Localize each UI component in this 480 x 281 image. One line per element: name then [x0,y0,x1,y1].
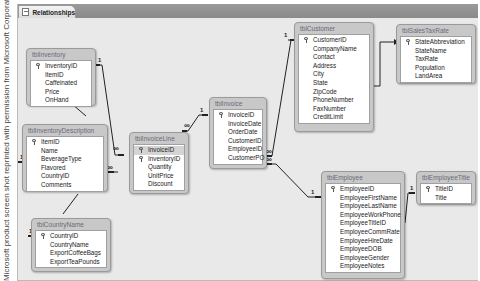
field-row[interactable]: Caffeinated [31,79,91,88]
field-name: EmployeeWorkPhone [340,211,401,218]
field-row[interactable]: CustomerID [214,137,262,146]
table-tblemployeetitle[interactable]: tblEmployeeTitle TitleID Title [416,171,476,205]
table-tblsalestaxrate[interactable]: tblSalesTaxRate StateAbbreviation StateN… [396,24,476,84]
field-row[interactable]: CountryName [36,241,106,250]
field-row[interactable]: State [299,79,369,88]
table-title: tblEmployee [325,172,401,183]
field-name: Flavored [41,164,66,171]
field-row[interactable]: Contact [299,53,369,62]
field-row[interactable]: EmployeeLastName [326,202,400,211]
field-row[interactable]: StateAbbreviation [401,38,471,47]
field-row[interactable]: ExportTeaPounds [36,258,106,267]
field-row[interactable]: TaxRate [401,55,471,64]
field-row[interactable]: TitleID [421,185,471,194]
table-tblinvoiceline[interactable]: tblInvoiceLine InvoiceID InventoryID Qua… [129,132,189,194]
field-row[interactable]: PhoneNumber [299,96,369,105]
field-row[interactable]: CustomerID [299,36,369,45]
field-row[interactable]: StateName [401,47,471,56]
field-name: Price [45,88,59,95]
table-tblcustomer[interactable]: tblCustomer CustomerID CompanyName Conta… [294,22,374,132]
field-row[interactable]: EmployeeNotes [326,262,400,271]
table-title: tblInventory [30,49,92,60]
field-row[interactable]: ZipCode [299,88,369,97]
field-row[interactable]: InvoiceID [134,146,184,155]
field-name: ItemID [41,138,60,145]
field-row[interactable]: EmployeeID [326,185,400,194]
field-name: CustomerID [313,36,347,43]
field-row[interactable]: Discount [134,180,184,189]
table-title: tblInvoiceLine [133,133,185,144]
field-name: Comments [41,181,71,188]
field-name: EmployeeLastName [340,202,397,209]
field-row[interactable]: ItemID [31,71,91,80]
primary-key-icon [219,112,223,118]
table-title: tblCountryName [35,219,107,230]
primary-key-icon [331,186,335,192]
field-row[interactable]: CustomerPO [214,154,262,163]
field-row[interactable]: Flavored [27,164,103,173]
field-row[interactable]: CreditLimit [299,113,369,122]
field-row[interactable]: InvoiceDate [214,120,262,129]
field-row[interactable]: EmployeeTitleID [326,219,400,228]
field-row[interactable]: CountryID [36,232,106,241]
field-name: StateName [415,47,447,54]
field-name: EmployeeTitleID [340,219,386,226]
field-name: InvoiceID [148,146,174,153]
field-list: InvoiceID InvoiceDate OrderDate Customer… [213,109,263,165]
field-row[interactable]: EmployeeGender [326,254,400,263]
field-row[interactable]: UnitPrice [134,172,184,181]
field-name: Name [41,147,58,154]
field-row[interactable]: Comments [27,181,103,190]
field-row[interactable]: EmployeeFirstName [326,194,400,203]
field-row[interactable]: InventoryID [134,155,184,164]
field-name: EmployeeFirstName [340,194,397,201]
field-row[interactable]: EmployeeHireDate [326,237,400,246]
primary-key-icon [139,147,143,153]
field-row[interactable]: CompanyName [299,45,369,54]
field-row[interactable]: OrderDate [214,128,262,137]
field-row[interactable]: EmployeeWorkPhone [326,211,400,220]
field-row[interactable]: ExportCoffeeBags [36,249,106,258]
field-list: ItemID Name BeverageType Flavored Countr… [26,136,104,192]
field-name: Contact [313,53,335,60]
field-list: CustomerID CompanyName Contact Address C… [298,34,370,124]
field-row[interactable]: EmployeeCommRate [326,228,400,237]
table-title: tblInventoryDescription [26,125,104,136]
field-name: Quantity [148,163,171,170]
field-row[interactable]: Name [27,147,103,156]
field-row[interactable]: EmployeeID [214,145,262,154]
table-tblinvoice[interactable]: tblInvoice InvoiceID InvoiceDate OrderDa… [209,97,267,169]
field-name: InvoiceID [228,111,254,118]
table-tblcountryname[interactable]: tblCountryName CountryID CountryName Exp… [31,218,111,272]
field-name: TitleID [435,185,453,192]
field-row[interactable]: ItemID [27,138,103,147]
field-row[interactable]: Quantity [134,163,184,172]
field-name: CompanyName [313,45,357,52]
table-tblinventorydescription[interactable]: tblInventoryDescription ItemID Name Beve… [22,124,108,192]
field-row[interactable]: BeverageType [27,155,103,164]
primary-key-icon [406,39,410,45]
field-row[interactable]: InventoryID [31,62,91,71]
table-title: tblCustomer [298,23,370,34]
field-row[interactable]: Population [401,64,471,73]
relationships-window: Relationships [17,4,478,281]
field-name: FaxNumber [313,105,346,112]
table-tblinventory[interactable]: tblInventory InventoryID ItemID Caffeina… [26,48,96,106]
primary-key-icon [426,186,430,192]
field-row[interactable]: Address [299,62,369,71]
field-row[interactable]: InvoiceID [214,111,262,120]
field-row[interactable]: City [299,70,369,79]
field-list: InvoiceID InventoryID Quantity UnitPrice… [133,144,185,191]
field-name: InventoryID [148,155,180,162]
table-tblemployee[interactable]: tblEmployee EmployeeID EmployeeFirstName… [321,171,405,279]
field-row[interactable]: OnHand [31,96,91,105]
field-row[interactable]: FaxNumber [299,105,369,114]
field-row[interactable]: LandArea [401,72,471,81]
svg-text:1: 1 [410,185,414,191]
field-row[interactable]: Title [421,194,471,203]
field-row[interactable]: EmployeeDOB [326,245,400,254]
field-list: CountryID CountryName ExportCoffeeBags E… [35,230,107,268]
field-name: City [313,70,324,77]
field-row[interactable]: CountryID [27,172,103,181]
field-row[interactable]: Price [31,88,91,97]
